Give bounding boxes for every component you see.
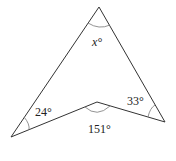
right-angle-label: 33° — [127, 94, 144, 108]
angle-diagram: x° 24° 33° 151° — [0, 0, 176, 161]
bottom-left-angle-label: 24° — [35, 105, 52, 119]
notch-angle-label: 151° — [88, 122, 111, 136]
apex-angle-label: x° — [91, 35, 102, 49]
bottom-left-angle-arc — [24, 117, 29, 130]
right-angle-arc — [148, 105, 155, 117]
edge-bottom-left-to-notch — [11, 102, 97, 137]
notch-angle-arc — [85, 106, 110, 112]
apex-angle-arc — [88, 23, 110, 27]
